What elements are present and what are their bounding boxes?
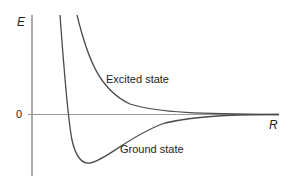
x-axis-label: R [269, 118, 278, 132]
y-axis-label: E [17, 15, 25, 29]
excited-state-label: Excited state [106, 73, 169, 85]
ground-state-label: Ground state [120, 143, 184, 155]
zero-label: 0 [16, 108, 22, 120]
ground-state-curve [60, 15, 279, 163]
excited-state-curve [77, 15, 279, 115]
